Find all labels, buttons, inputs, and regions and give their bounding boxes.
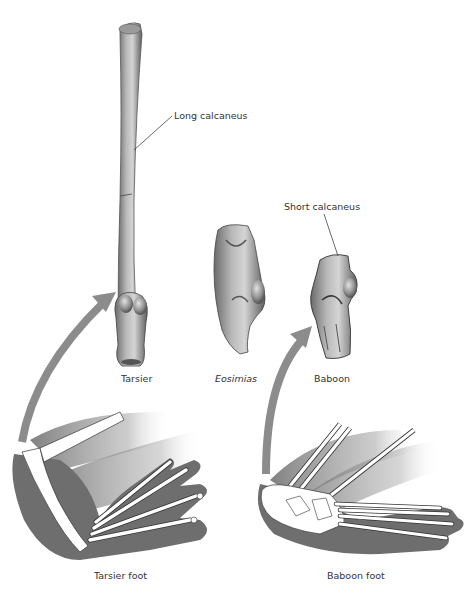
baboon-foot-label: Baboon foot — [327, 571, 385, 581]
baboon-foot-illustration — [258, 424, 464, 554]
eosimias-bone-label: Eosimias — [215, 374, 257, 384]
long-calcaneus-label: Long calcaneus — [174, 111, 248, 121]
short-calcaneus-leader-line — [324, 214, 338, 256]
baboon-arrow — [266, 326, 312, 474]
tarsier-foot-label: Tarsier foot — [94, 571, 147, 581]
tarsier-bone-label: Tarsier — [121, 374, 152, 384]
baboon-calcaneus-bone — [311, 255, 357, 359]
long-calcaneus-leader — [134, 116, 172, 150]
tarsier-foot-illustration — [12, 412, 207, 560]
eosimias-calcaneus-bone — [214, 225, 265, 354]
baboon-bone-label: Baboon — [314, 374, 350, 384]
calcaneus-comparison-figure — [0, 0, 470, 598]
short-calcaneus-label: Short calcaneus — [284, 202, 360, 212]
